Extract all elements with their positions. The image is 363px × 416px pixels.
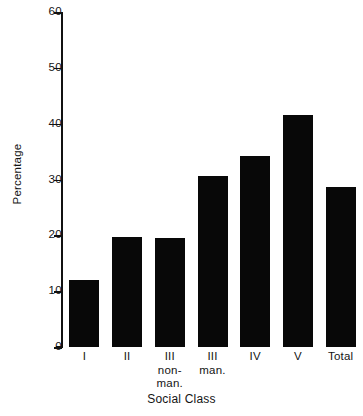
bar (155, 238, 185, 347)
x-tick-label-line: man. (185, 364, 240, 378)
y-tick-mark (54, 291, 62, 293)
x-tick-label-line: I (83, 350, 86, 362)
y-tick-label: 60 (16, 5, 62, 17)
y-tick-label: 40 (16, 117, 62, 129)
y-tick-label: 20 (16, 228, 62, 240)
plot-area (63, 12, 362, 347)
bar (283, 115, 313, 347)
y-tick-label: 50 (16, 61, 62, 73)
bar (326, 187, 356, 347)
x-tick-label-line: V (294, 350, 302, 362)
y-tick-mark (54, 347, 62, 349)
bar (112, 237, 142, 347)
y-tick-mark (54, 124, 62, 126)
bar (198, 176, 228, 347)
x-tick-label: Total (313, 350, 363, 364)
y-tick-label: 30 (16, 173, 62, 185)
x-tick-label-line: III (207, 350, 217, 362)
x-axis-tick-labels: IIIIIInon-man.IIIman.IVVTotal (63, 350, 362, 396)
x-tick-label-line: man. (142, 377, 197, 391)
y-tick-mark (54, 12, 62, 14)
y-tick-label: 10 (16, 284, 62, 296)
bar (240, 156, 270, 348)
bar-chart: Percentage 0102030405060 IIIIIInon-man.I… (0, 0, 363, 416)
x-tick-label-line: IV (250, 350, 261, 362)
x-tick-label-line: III (165, 350, 175, 362)
y-tick-mark (54, 180, 62, 182)
y-tick-mark (54, 235, 62, 237)
y-tick-mark (54, 68, 62, 70)
x-tick-label-line: Total (328, 350, 353, 362)
x-axis-title: Social Class (0, 392, 363, 406)
bar (69, 280, 99, 347)
y-tick-label: 0 (16, 340, 62, 352)
x-tick-label-line: II (124, 350, 131, 362)
